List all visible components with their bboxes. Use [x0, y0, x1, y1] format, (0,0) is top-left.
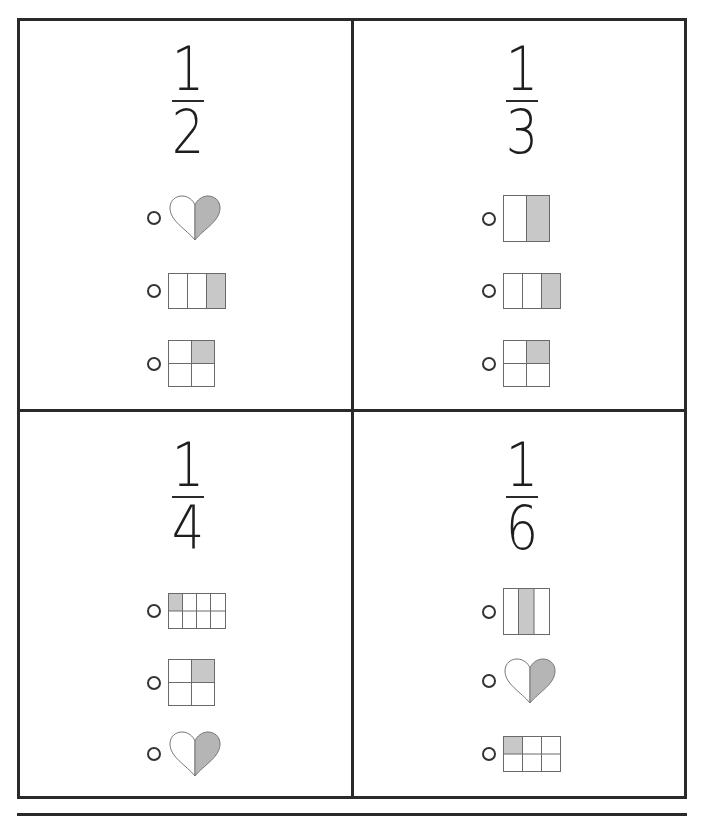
- answer-radio[interactable]: [147, 357, 161, 371]
- option-grid-eighths[interactable]: [147, 593, 226, 629]
- answer-radio[interactable]: [482, 357, 496, 371]
- option-bar-halves[interactable]: [482, 195, 550, 242]
- grid-four-by-two-icon: [168, 593, 226, 629]
- option-heart[interactable]: [147, 731, 222, 777]
- fraction-one-half: 1 2: [158, 44, 218, 157]
- grid-two-by-two-icon: [168, 659, 215, 706]
- answer-radio[interactable]: [147, 676, 161, 690]
- option-bar-thirds-middle[interactable]: [482, 588, 550, 635]
- bar-three-columns-icon: [503, 273, 561, 309]
- bar-three-columns-middle-icon: [503, 588, 550, 635]
- option-bar-thirds[interactable]: [147, 273, 226, 309]
- heart-half-shaded-icon: [503, 658, 557, 704]
- heart-half-shaded-icon: [168, 195, 222, 241]
- grid-two-by-two-icon: [168, 340, 215, 387]
- answer-radio[interactable]: [147, 284, 161, 298]
- fraction-denominator: 2: [163, 107, 214, 157]
- fraction-numerator: 1: [163, 44, 214, 94]
- option-bar-thirds[interactable]: [482, 273, 561, 309]
- answer-radio[interactable]: [482, 212, 496, 226]
- fraction-one-quarter: 1 4: [158, 440, 218, 553]
- option-heart[interactable]: [482, 658, 557, 704]
- answer-radio[interactable]: [147, 604, 161, 618]
- grid-three-by-two-icon: [503, 736, 561, 772]
- option-heart[interactable]: [147, 195, 222, 241]
- bar-three-columns-icon: [168, 273, 226, 309]
- fraction-one-third: 1 3: [492, 44, 552, 157]
- answer-radio[interactable]: [482, 674, 496, 688]
- fraction-numerator: 1: [497, 44, 548, 94]
- fraction-numerator: 1: [497, 440, 548, 490]
- fraction-denominator: 4: [163, 503, 214, 553]
- fraction-denominator: 6: [497, 503, 548, 553]
- footer-rule: [17, 813, 687, 816]
- answer-radio[interactable]: [482, 284, 496, 298]
- option-grid-quarters[interactable]: [147, 659, 215, 706]
- option-grid-quarters[interactable]: [482, 340, 550, 387]
- horizontal-divider: [17, 409, 687, 412]
- grid-two-by-two-icon: [503, 340, 550, 387]
- fraction-denominator: 3: [497, 107, 548, 157]
- answer-radio[interactable]: [482, 747, 496, 761]
- option-grid-sixths[interactable]: [482, 736, 561, 772]
- answer-radio[interactable]: [147, 747, 161, 761]
- answer-radio[interactable]: [482, 605, 496, 619]
- answer-radio[interactable]: [147, 211, 161, 225]
- fraction-numerator: 1: [163, 440, 214, 490]
- fraction-one-sixth: 1 6: [492, 440, 552, 553]
- bar-two-columns-icon: [503, 195, 550, 242]
- option-grid-quarters[interactable]: [147, 340, 215, 387]
- heart-half-shaded-icon: [168, 731, 222, 777]
